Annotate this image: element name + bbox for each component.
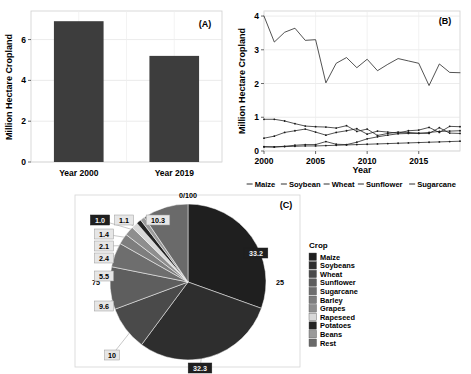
panel-c-slice-label: 9.6 [99, 302, 109, 311]
panel-c: 0/1002575 33.232.3109.65.52.42.11.41.11.… [60, 190, 410, 374]
panel-b-data-point [356, 131, 358, 133]
panel-b-data-point [315, 126, 317, 128]
panel-a-chart: 0246 Year 2000Year 2019 Million Hectare … [0, 0, 236, 190]
panel-b-legend-label: Soybean [289, 180, 321, 189]
panel-b-data-point [377, 143, 379, 145]
panel-c-slice-label: 1.0 [95, 216, 105, 225]
panel-b-data-point [377, 136, 379, 138]
panel-c-slice-label: 5.5 [99, 272, 109, 281]
panel-b-y-tick-label: 4 [254, 11, 259, 21]
panel-b-chart: 01234 2000200520102015 Million Hectare C… [236, 0, 471, 190]
panel-c-legend-swatch [309, 330, 317, 338]
panel-b-data-point [438, 131, 440, 133]
panel-b-data-point [263, 137, 265, 139]
panel-b-data-point [325, 134, 327, 136]
panel-b-data-point [418, 129, 420, 131]
panel-a-label: (A) [199, 19, 212, 29]
panel-c-legend-swatch [309, 313, 317, 321]
panel-b-data-point [346, 125, 348, 127]
panel-c-slice-label: 2.1 [99, 242, 109, 251]
panel-c-legend-swatch [309, 322, 317, 330]
panel-c-slice-label: 10.3 [151, 216, 165, 225]
panel-c-legend-title: Crop [309, 241, 328, 250]
panel-b-data-point [304, 125, 306, 127]
panel-b-legend-label: Sugarcane [417, 180, 456, 189]
panel-b-data-point [325, 126, 327, 128]
panel-b-data-point [377, 130, 379, 132]
panel-b-data-point [387, 143, 389, 145]
panel-b-data-point [397, 142, 399, 144]
panel-c-legend-label: Rest [320, 339, 337, 348]
panel-b-data-point [294, 130, 296, 132]
panel-b-data-point [408, 130, 410, 132]
panel-c-legend-swatch [309, 339, 317, 347]
panel-b-data-point [284, 120, 286, 122]
panel-b-data-point [408, 133, 410, 135]
panel-a-bar [54, 21, 104, 162]
panel-c-axis-label: 0/100 [179, 191, 197, 200]
panel-b-data-point [335, 132, 337, 134]
panel-c-chart: 0/1002575 33.232.3109.65.52.42.11.41.11.… [60, 190, 410, 374]
panel-b-y-tick-label: 0 [254, 146, 259, 156]
panel-b-data-point [273, 135, 275, 137]
panel-b-legend-label: Sunflower [366, 180, 403, 189]
panel-c-legend-swatch [309, 262, 317, 270]
panel-b-y-tick-label: 3 [254, 45, 259, 55]
panel-b-legend-label: Wheat [332, 180, 355, 189]
panel-c-slice-label: 33.2 [249, 249, 263, 258]
panel-b-data-point [387, 133, 389, 135]
panel-b-data-point [459, 126, 461, 128]
panel-b-data-point [397, 131, 399, 133]
panel-b-data-point [366, 143, 368, 145]
panel-b-data-point [459, 133, 461, 135]
panel-b-x-tick-label: 2000 [255, 156, 274, 166]
panel-a-y-tick-label: 2 [21, 116, 26, 126]
panel-c-axis-label: 25 [276, 278, 284, 287]
panel-b-data-point [325, 145, 327, 147]
panel-b-data-point [428, 141, 430, 143]
panel-b-data-point [438, 141, 440, 143]
panel-b-data-point [356, 144, 358, 146]
panel-b-data-point [346, 130, 348, 132]
panel-b-data-point [387, 134, 389, 136]
panel-a-x-tick-label: Year 2000 [59, 168, 99, 178]
panel-b-data-point [418, 142, 420, 144]
panel-a-y-tick-label: 0 [21, 157, 26, 167]
panel-b-data-point [273, 118, 275, 120]
panel-a-ylabel: Million Hectare Cropland [4, 34, 14, 140]
panel-b-data-point [459, 130, 461, 132]
panel-a-y-tick-label: 6 [21, 35, 26, 45]
panel-b-data-point [366, 128, 368, 130]
panel-c-legend-swatch [309, 270, 317, 278]
panel-b-data-point [263, 118, 265, 120]
panel-c-legend-swatch [309, 287, 317, 295]
panel-b-data-point [325, 141, 327, 143]
panel-b-data-point [428, 132, 430, 134]
figure-root: 0246 Year 2000Year 2019 Million Hectare … [0, 0, 471, 374]
panel-a-bar [149, 56, 199, 162]
panel-b-data-point [294, 145, 296, 147]
panel-c-legend-swatch [309, 253, 317, 261]
panel-c-legend-swatch [309, 296, 317, 304]
panel-b-data-point [263, 146, 265, 148]
panel-b-data-point [315, 131, 317, 133]
panel-b-data-point [408, 142, 410, 144]
panel-c-slice-label: 10 [108, 351, 116, 360]
panel-b-xlabel: Year [352, 165, 372, 175]
panel-a-x-tick-label: Year 2019 [155, 168, 195, 178]
panel-b-data-point [294, 123, 296, 125]
panel-b-data-point [356, 141, 358, 143]
panel-b-data-point [449, 125, 451, 127]
panel-c-slice-label: 1.1 [119, 216, 129, 225]
panel-b-data-point [273, 146, 275, 148]
panel-b-data-point [366, 138, 368, 140]
panel-b-data-point [418, 133, 420, 135]
panel-c-slice-label: 32.3 [193, 364, 207, 373]
panel-b-data-point [284, 132, 286, 134]
panel-c-slice-label: 2.4 [99, 254, 109, 263]
panel-b-data-point [346, 144, 348, 146]
panel-c-legend-swatch [309, 279, 317, 287]
panel-b-ylabel: Million Hectare Cropland [237, 28, 247, 134]
panel-a: 0246 Year 2000Year 2019 Million Hectare … [0, 0, 236, 190]
panel-c-slice-label: 1.4 [99, 230, 109, 239]
